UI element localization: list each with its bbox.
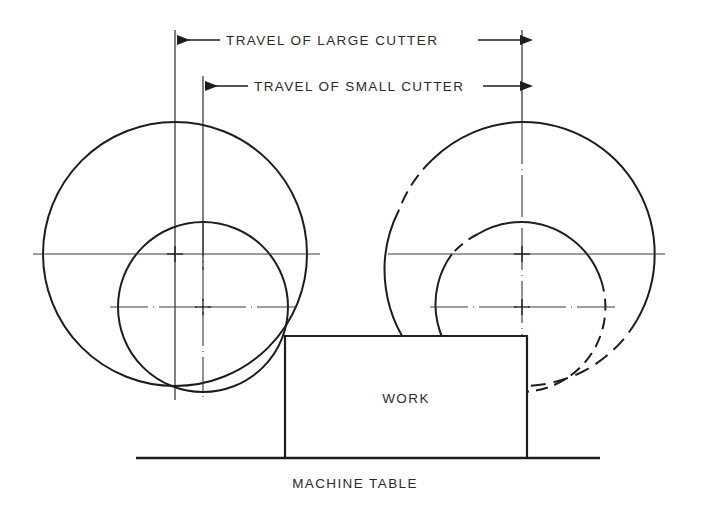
label-machine-table: MACHINE TABLE [292, 476, 418, 491]
center-mark-left-small [195, 299, 211, 315]
left-center-marks [167, 246, 211, 315]
cutter-travel-diagram: TRAVEL OF LARGE CUTTER TRAVEL OF SMALL C… [0, 0, 707, 510]
center-mark-left-large [167, 246, 183, 262]
left-centerlines [33, 222, 320, 398]
label-travel-of-large-cutter: TRAVEL OF LARGE CUTTER [226, 33, 438, 48]
right-small-cutter-arc-phantom-a [452, 234, 478, 254]
right-large-cutter-arc-solid-a [522, 122, 655, 320]
right-small-cutter-arc-phantom-b [522, 280, 605, 392]
right-large-cutter-arc-phantom-b [522, 320, 637, 386]
right-large-cutter-arc-phantom-a [399, 160, 432, 210]
right-center-marks [514, 246, 530, 315]
center-mark-right-large [514, 246, 530, 262]
label-travel-of-small-cutter: TRAVEL OF SMALL CUTTER [254, 79, 464, 94]
right-small-cutter-arc-solid-a [522, 222, 601, 280]
right-large-cutter-arc-solid-b [432, 122, 522, 160]
engineering-drawing-canvas: TRAVEL OF LARGE CUTTER TRAVEL OF SMALL C… [0, 0, 707, 510]
center-mark-right-small [514, 299, 530, 315]
label-work: WORK [382, 391, 430, 406]
right-small-cutter-arc-solid-b [478, 222, 522, 234]
